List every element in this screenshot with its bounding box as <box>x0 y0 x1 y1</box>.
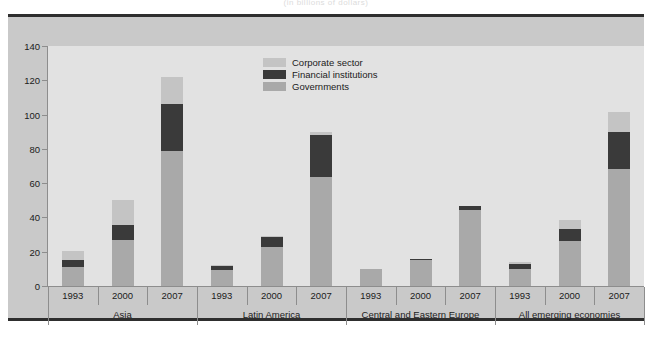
x-axis-year-label: 2000 <box>98 287 148 305</box>
x-axis-year-label: 2000 <box>247 287 297 305</box>
bar-segment-fin <box>559 229 581 241</box>
bar-segment-corp <box>310 132 332 135</box>
x-axis-year-label: 1993 <box>346 287 396 305</box>
bar-segment-fin <box>62 260 84 267</box>
x-axis-year-label: 2007 <box>594 287 644 305</box>
axis-separator <box>197 287 198 325</box>
x-axis-year-label: 1993 <box>48 287 98 305</box>
legend-swatch-fin <box>263 70 286 79</box>
bar-segment-fin <box>112 225 134 240</box>
bar-segment-fin <box>608 132 630 170</box>
axis-separator <box>48 287 49 325</box>
y-axis-tick-label: 40 <box>29 212 40 223</box>
bar-segment-gov <box>459 210 481 286</box>
y-axis-tick-label: 60 <box>29 178 40 189</box>
bar-stack <box>459 46 481 286</box>
x-axis-group-label: Central and Eastern Europe <box>346 305 495 325</box>
legend-item: Financial institutions <box>263 69 378 80</box>
x-axis-year-label: 2000 <box>545 287 595 305</box>
bar-segment-gov <box>360 269 382 286</box>
axis-separator <box>594 287 595 305</box>
axis-separator <box>445 287 446 305</box>
legend-label: Corporate sector <box>292 57 363 68</box>
x-axis-year-label: 2007 <box>445 287 495 305</box>
bar-stack <box>608 46 630 286</box>
bar-segment-gov <box>261 247 283 286</box>
bar-segment-fin <box>410 259 432 261</box>
bar-segment-gov <box>310 177 332 286</box>
bar-segment-corp <box>161 77 183 104</box>
axis-separator <box>644 287 645 325</box>
axis-separator <box>545 287 546 305</box>
bar-segment-fin <box>211 266 233 269</box>
bar-segment-gov <box>161 151 183 286</box>
bar-stack <box>410 46 432 286</box>
bar-segment-gov <box>509 269 531 286</box>
bar-segment-corp <box>559 220 581 229</box>
chart-legend: Corporate sectorFinancial institutionsGo… <box>263 57 378 93</box>
legend-swatch-corp <box>263 58 286 67</box>
axis-separator <box>495 287 496 325</box>
x-axis-year-label: 2000 <box>396 287 446 305</box>
bar-segment-gov <box>211 270 233 286</box>
y-axis-labels: 020406080100120140 <box>8 17 47 316</box>
axis-separator <box>147 287 148 305</box>
axis-separator <box>247 287 248 305</box>
y-axis-tick-label: 100 <box>24 109 40 120</box>
bar-segment-gov <box>608 169 630 286</box>
bar-segment-fin <box>459 206 481 209</box>
x-axis-year-label: 2007 <box>296 287 346 305</box>
bar-segment-gov <box>559 241 581 286</box>
bar-segment-gov <box>62 267 84 286</box>
bar-segment-gov <box>112 240 134 286</box>
axis-separator <box>396 287 397 305</box>
bar-segment-fin <box>310 135 332 177</box>
x-axis-year-label: 2007 <box>147 287 197 305</box>
bar-stack <box>509 46 531 286</box>
bar-segment-corp <box>509 262 531 264</box>
legend-item: Governments <box>263 81 378 92</box>
legend-item: Corporate sector <box>263 57 378 68</box>
bar-segment-fin <box>261 237 283 246</box>
axis-separator <box>346 287 347 325</box>
x-axis-group-label: Latin America <box>197 305 346 325</box>
y-axis-tick-label: 20 <box>29 246 40 257</box>
y-axis-tick-label: 80 <box>29 143 40 154</box>
chart-subtitle: (in billions of dollars) <box>0 0 652 7</box>
bar-stack <box>62 46 84 286</box>
chart-figure: (in billions of dollars) 020406080100120… <box>0 0 652 339</box>
bar-stack <box>559 46 581 286</box>
bar-segment-gov <box>410 260 432 286</box>
bar-stack <box>112 46 134 286</box>
x-axis-group-label: All emerging economies <box>495 305 644 325</box>
y-axis-tick-label: 120 <box>24 75 40 86</box>
axis-separator <box>296 287 297 305</box>
x-axis-year-label: 1993 <box>197 287 247 305</box>
bar-segment-corp <box>211 265 233 266</box>
bar-segment-corp <box>608 112 630 132</box>
x-axis-group-label: Asia <box>48 305 197 325</box>
bar-segment-fin <box>161 104 183 151</box>
chart-plate: 020406080100120140 Corporate sectorFinan… <box>8 14 644 321</box>
axis-separator <box>98 287 99 305</box>
bar-stack <box>211 46 233 286</box>
x-axis-year-label: 1993 <box>495 287 545 305</box>
y-axis-tick-label: 0 <box>35 281 40 292</box>
legend-label: Financial institutions <box>292 69 378 80</box>
bar-segment-corp <box>261 236 283 237</box>
legend-swatch-gov <box>263 82 286 91</box>
bar-segment-fin <box>509 264 531 269</box>
bar-stack <box>161 46 183 286</box>
bar-segment-corp <box>112 200 134 225</box>
y-axis-tick-label: 140 <box>24 41 40 52</box>
bar-segment-corp <box>62 251 84 260</box>
legend-label: Governments <box>292 81 349 92</box>
